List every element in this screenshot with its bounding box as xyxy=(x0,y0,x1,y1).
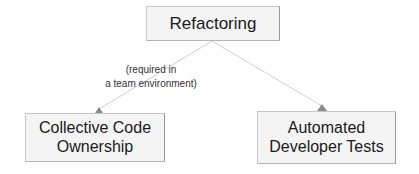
node-automated-developer-tests: Automated Developer Tests xyxy=(257,111,396,164)
node-label-line: Collective Code xyxy=(39,119,151,137)
edge-label-required-in-team: (required in a team environment) xyxy=(96,63,206,91)
node-refactoring: Refactoring xyxy=(146,6,280,41)
edge-refactoring-to-adt xyxy=(212,41,322,106)
edge-label-line: (required in xyxy=(96,63,206,77)
node-label-line: Ownership xyxy=(39,138,151,156)
node-collective-code-ownership: Collective Code Ownership xyxy=(25,113,165,162)
arrowhead-icon xyxy=(317,104,327,111)
node-label-line: Developer Tests xyxy=(269,138,383,156)
node-label: Refactoring xyxy=(170,14,257,34)
diagram-canvas: Refactoring (required in a team environm… xyxy=(0,0,419,174)
node-label-line: Automated xyxy=(269,119,383,137)
edge-label-line: a team environment) xyxy=(96,77,206,91)
